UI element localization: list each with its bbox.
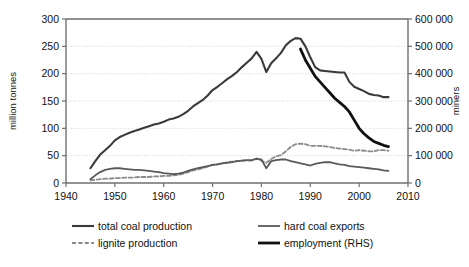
y2-tick-label: 400 000 (415, 67, 453, 79)
x-tick-label: 2000 (347, 190, 371, 202)
y2-tick-label: 500 000 (415, 40, 453, 52)
x-tick-label: 1990 (299, 190, 323, 202)
y-tick-label: 300 (41, 13, 59, 25)
y2-tick-label: 200 000 (415, 122, 453, 134)
x-tick-label: 1940 (54, 190, 78, 202)
y2-tick-label: 0 (415, 177, 421, 189)
legend-label: employment (RHS) (284, 237, 373, 249)
y-tick-label: 200 (41, 67, 59, 79)
y-tick-label: 50 (47, 149, 59, 161)
y-tick-label: 100 (41, 122, 59, 134)
y-tick-label: 250 (41, 40, 59, 52)
legend-label: lignite production (98, 237, 178, 249)
y-tick-label: 150 (41, 95, 59, 107)
y2-axis-title: miners (450, 87, 461, 116)
series-line-lignite-production (90, 144, 388, 181)
chart-figure: 0501001502002503000100 000200 000300 000… (0, 0, 469, 267)
legend-label: total coal production (98, 220, 192, 232)
x-tick-label: 1970 (201, 190, 225, 202)
y2-tick-label: 100 000 (415, 149, 453, 161)
x-tick-label: 1950 (103, 190, 127, 202)
legend-label: hard coal exports (284, 220, 365, 232)
x-tick-label: 2010 (396, 190, 420, 202)
x-tick-label: 1980 (250, 190, 274, 202)
x-tick-label: 1960 (152, 190, 176, 202)
legend: total coal productionlignite productionh… (72, 220, 373, 249)
series-line-hard-coal-exports (90, 159, 388, 179)
y-axis-title: million tonnes (7, 72, 18, 130)
series-group (90, 38, 388, 180)
y2-tick-label: 300 000 (415, 95, 453, 107)
y-tick-label: 0 (53, 177, 59, 189)
coal-production-line-chart: 0501001502002503000100 000200 000300 000… (0, 0, 469, 267)
axis-ticks: 0501001502002503000100 000200 000300 000… (41, 13, 453, 202)
plot-frame (66, 19, 408, 183)
y2-tick-label: 600 000 (415, 13, 453, 25)
